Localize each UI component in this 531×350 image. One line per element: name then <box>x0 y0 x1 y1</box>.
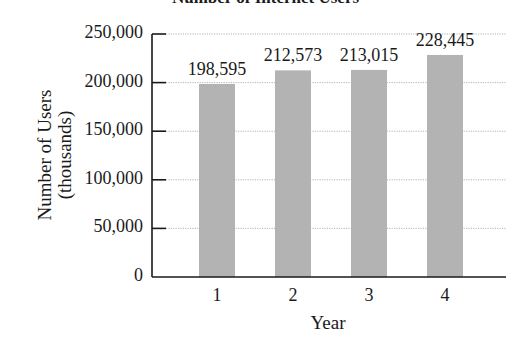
y-tick-label: 150,000 <box>85 120 144 141</box>
y-tick-label: 200,000 <box>85 71 144 92</box>
bar <box>351 70 387 277</box>
y-axis-label-line-1: Number of Users <box>35 90 55 221</box>
x-axis-label: Year <box>310 312 345 334</box>
bars <box>199 55 463 277</box>
bar-value-label: 198,595 <box>188 59 247 80</box>
bar-value-label: 213,015 <box>340 45 399 66</box>
x-tick-label: 2 <box>289 285 298 306</box>
y-tick-label: 250,000 <box>85 22 144 43</box>
y-tick-label: 100,000 <box>85 168 144 189</box>
y-axis-label: Number of Users (thousands) <box>35 90 75 221</box>
bar <box>275 70 311 277</box>
bar <box>427 55 463 277</box>
x-tick-label: 4 <box>441 285 450 306</box>
y-tick-label: 50,000 <box>94 217 144 238</box>
x-tick-label: 3 <box>365 285 374 306</box>
x-tick-label: 1 <box>213 285 222 306</box>
y-tick-label: 0 <box>134 265 143 286</box>
y-axis-label-line-2: (thousands) <box>55 90 75 221</box>
bar-value-label: 212,573 <box>264 45 323 66</box>
bar <box>199 84 235 277</box>
bar-value-label: 228,445 <box>416 30 475 51</box>
